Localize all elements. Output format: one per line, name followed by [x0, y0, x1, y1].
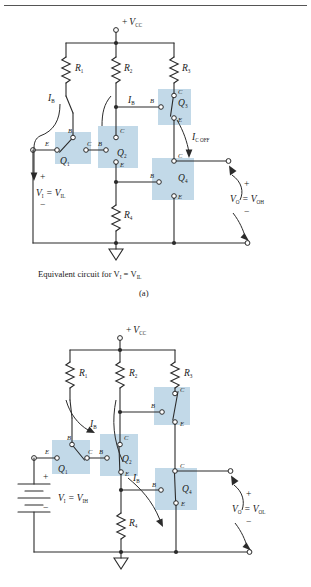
- vi-minus-sign-a: −: [40, 200, 45, 210]
- r2-label-a: R2: [123, 63, 133, 74]
- resistor-r1-a: [62, 57, 70, 83]
- vo-minus-sign-a: −: [244, 207, 249, 217]
- vi-plus-sign-a: +: [40, 172, 45, 182]
- q3-base-terminal-a: [159, 105, 164, 110]
- ib2-label-a: IB: [127, 95, 135, 106]
- output-terminal-bottom-b: [247, 550, 252, 555]
- q4e-bottom-node-a: [172, 241, 176, 245]
- ib1-label-b: IB: [89, 419, 97, 430]
- output-terminal-top-b: [228, 469, 233, 474]
- panel-a: +VCC R1 R2 R3 R4 Q1 Q2 Q3 Q4 B E C C B: [31, 17, 265, 298]
- ib1-arrow-path-b: [66, 400, 88, 430]
- r4-label-b: R4: [128, 518, 138, 529]
- q2-collector-terminal-b: [118, 442, 123, 447]
- q2-base-terminal-a: [104, 148, 109, 153]
- q4-terminal-e-label-a: E: [177, 193, 182, 200]
- q4-collector-terminal-a: [172, 159, 177, 164]
- q3-collector-terminal-b: [173, 391, 178, 396]
- q3-terminal-e-label-b: E: [179, 420, 184, 427]
- r1-label-a: R1: [74, 63, 84, 74]
- vo-upper-arrowhead-a: [229, 166, 237, 176]
- q2-terminal-c-label-b: C: [124, 434, 129, 441]
- ground-symbol-b: [114, 558, 128, 569]
- vcc-label-b: +VCC: [126, 325, 147, 336]
- q2-terminal-e-label-b: E: [124, 470, 129, 477]
- resistor-r3-b: [171, 362, 179, 388]
- ib2-arrowhead-b: [156, 519, 163, 528]
- vi-plus-sign-b: +: [43, 472, 48, 482]
- panel-a-caption: Equivalent circuit for VI = VIL: [38, 269, 142, 280]
- q1-terminal-c-label-a: C: [87, 140, 92, 147]
- vi-label-b: VI = VIH: [58, 493, 88, 504]
- q1-terminal-c-label-b: C: [88, 448, 93, 455]
- output-terminal-top-a: [226, 159, 231, 164]
- resistor-r1-b: [66, 362, 74, 388]
- resistor-r4-a: [112, 205, 120, 231]
- vo-plus-sign-a: +: [244, 179, 249, 189]
- q3-terminal-b-label-b: B: [151, 402, 155, 409]
- ground-symbol-a: [109, 249, 123, 260]
- q3-terminal-e-label-a: E: [177, 116, 182, 123]
- vo-label-b: VO = VOL: [232, 504, 265, 515]
- q2-terminal-e-label-a: E: [119, 161, 124, 168]
- q4-terminal-c-label-b: C: [180, 462, 185, 469]
- circuit-figure-svg: +VCC R1 R2 R3 R4 Q1 Q2 Q3 Q4 B E C C B: [0, 0, 311, 587]
- ic-off-arrowhead-a: [186, 150, 193, 158]
- q4-base-terminal-a: [157, 180, 162, 185]
- r4-label-a: R4: [123, 210, 133, 221]
- q1-terminal-b-label-b: B: [67, 434, 71, 441]
- vcc-label-a: +VCC: [122, 17, 143, 28]
- q4-emitter-terminal-b: [174, 501, 179, 506]
- q2-terminal-b-label-a: B: [98, 140, 102, 147]
- output-terminal-bottom-a: [245, 241, 250, 246]
- ic-off-label-a: IC OFF: [191, 132, 210, 143]
- q3-terminal-c-label-b: C: [180, 386, 185, 393]
- q4-emitter-terminal-a: [172, 194, 177, 199]
- q4e-bottom-node-b: [174, 550, 178, 554]
- q2-terminal-b-label-b: B: [99, 448, 103, 455]
- q1-emitter-terminal-b: [55, 456, 60, 461]
- vo-label-a: VO = VOH: [230, 194, 264, 205]
- q4-terminal-c-label-a: C: [178, 152, 183, 159]
- q4-collector-terminal-b: [173, 469, 178, 474]
- vcc-terminal-b: [118, 336, 123, 341]
- ib2-arrow-path-a: [102, 96, 111, 126]
- q3-terminal-b-label-a: B: [150, 97, 154, 104]
- r3-label-a: R3: [181, 63, 191, 74]
- vi-minus-sign-b: −: [43, 503, 48, 513]
- vo-lower-arrowhead-b: [243, 543, 252, 551]
- resistor-r4-b: [117, 513, 125, 539]
- vo-plus-sign-b: +: [246, 489, 251, 499]
- ib1-label-a: IB: [47, 93, 55, 104]
- vcc-terminal-a: [114, 28, 119, 33]
- r1-label-b: R1: [78, 368, 88, 379]
- panel-a-label: (a): [139, 288, 149, 298]
- q3-collector-terminal-a: [172, 93, 177, 98]
- vo-upper-arrowhead-b: [231, 476, 239, 486]
- r2-label-b: R2: [128, 368, 138, 379]
- q3-base-terminal-b: [160, 410, 165, 415]
- q4-base-terminal-b: [159, 488, 164, 493]
- r3-label-b: R3: [183, 368, 193, 379]
- q2-collector-terminal-a: [114, 135, 119, 140]
- panel-b: +VCC R1 R2 R3 R4 Q1 Q2 Q4 B E C C B E B …: [18, 325, 265, 569]
- resistor-r2-a: [112, 57, 120, 83]
- q3-emitter-terminal-b: [173, 420, 178, 425]
- vo-minus-sign-b: −: [246, 517, 251, 527]
- q1-terminal-e-label-a: E: [44, 140, 49, 147]
- q2-terminal-c-label-a: C: [120, 127, 125, 134]
- figure-root: +VCC R1 R2 R3 R4 Q1 Q2 Q3 Q4 B E C C B: [0, 0, 311, 587]
- q1-emitter-terminal-a: [55, 148, 60, 153]
- q4-terminal-b-label-b: B: [152, 481, 156, 488]
- q1-terminal-e-label-b: E: [44, 448, 49, 455]
- q3-emitter-terminal-a: [172, 116, 177, 121]
- resistor-r2-b: [116, 362, 124, 388]
- q1-collector-terminal-a: [84, 148, 89, 153]
- highlight-q3-b: [154, 387, 190, 425]
- q1-collector-terminal-b: [85, 456, 90, 461]
- q4-terminal-b-label-a: B: [150, 172, 154, 179]
- ib1-arrowhead-a: [31, 173, 38, 181]
- vo-lower-arrowhead-a: [241, 233, 250, 241]
- vi-label-a: VI = VIL: [36, 188, 65, 199]
- ib1-arrow-path-a: [40, 104, 60, 136]
